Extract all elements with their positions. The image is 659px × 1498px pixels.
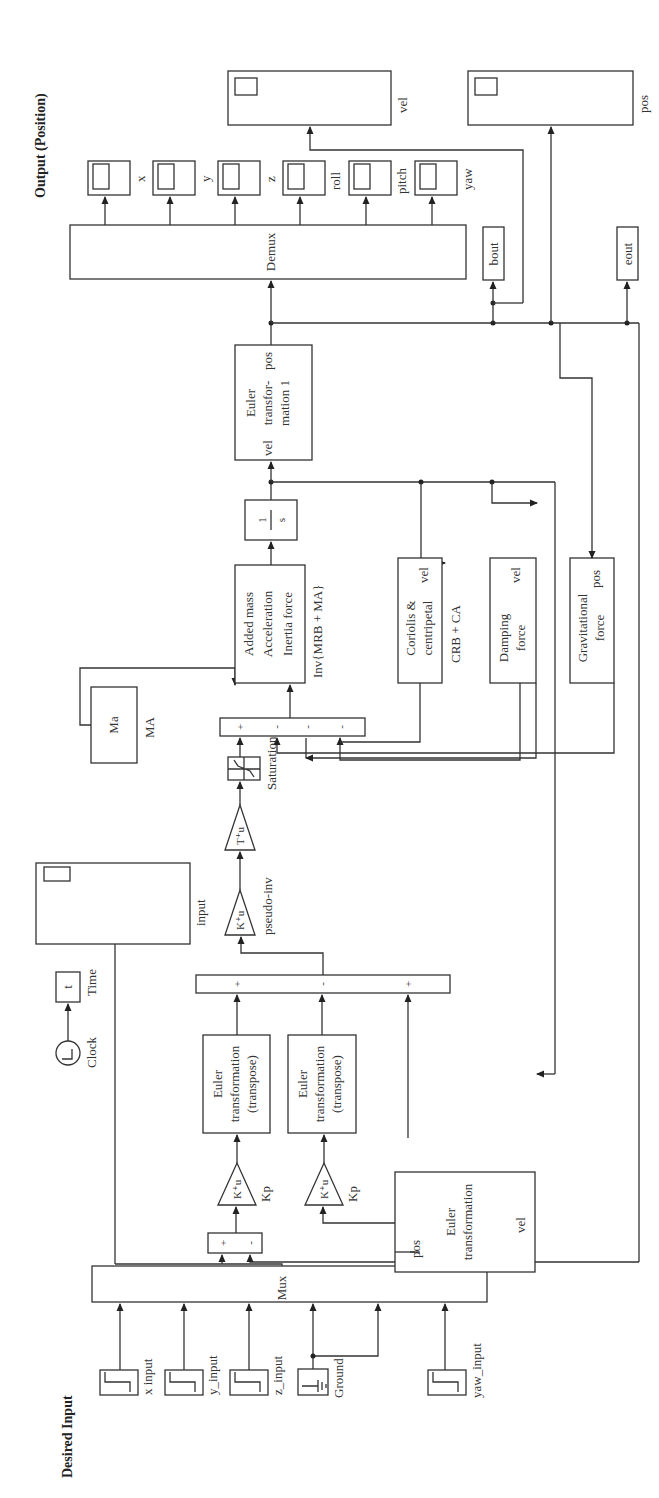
ma-label: MA [142,716,157,738]
euler-transformation-1-block[interactable]: Euler transfor- mation 1 vel pos [235,345,312,460]
output-position-title: Output (Position) [33,93,49,198]
scope-x[interactable]: x [88,161,148,195]
t-gain-text: T⁺u [234,826,246,845]
sumbig-sign-1: + [231,981,243,987]
scope-y-label: y [198,175,213,182]
z-input-block[interactable]: z_input [230,1356,285,1395]
coriolis-block[interactable]: Coriolis & centripetal vel CRB + CA [398,558,463,683]
scope-roll-label: roll [328,172,343,190]
pseudo-inv-text: K⁺u [234,910,246,930]
y-input-block[interactable]: y_input [165,1355,220,1395]
integrator-den: s [275,518,287,522]
pos-scope-label: pos [636,95,651,113]
added-mass-label: Inv{MRB + MA} [310,585,325,679]
input-scope-label: input [193,899,208,926]
sum4-sign-3: - [301,725,313,729]
sum-big-block[interactable]: + - + [196,975,450,993]
scope-x-label: x [133,175,148,182]
clock-block[interactable]: Clock [56,1036,99,1068]
eout-label: eout [620,242,635,265]
sumbig-sign-2: - [316,982,328,986]
eout-block[interactable]: eout [617,227,638,280]
euler1-line3: mation 1 [277,380,292,426]
euler-transpose-1-block[interactable]: Euler transformation (transpose) [203,1035,270,1133]
kp-gain-1[interactable]: K⁺u Kp [218,1163,273,1205]
simulink-diagram: Desired Input Output (Position) x input … [0,0,659,1498]
added-mass-line3: Inertia force [280,592,295,656]
euler-line2: transformation [460,1183,475,1260]
gravitational-block[interactable]: Gravitational force pos [570,558,614,683]
euler-t2-line1: Euler [295,1069,310,1098]
kp1-label: Kp [258,1186,273,1202]
added-mass-line1: Added mass [241,592,256,656]
ground-label: Ground [331,1358,346,1398]
kp1-text: K⁺u [231,1179,243,1199]
scope-yaw[interactable]: yaw [415,161,475,195]
damping-block[interactable]: Damping force vel [490,558,536,683]
clock-label: Clock [84,1036,99,1068]
gravitational-line1: Gravitational [575,593,590,662]
ground-block[interactable]: Ground [298,1358,346,1398]
added-mass-block[interactable]: Added mass Acceleration Inertia force In… [235,565,325,683]
vel-scope[interactable]: vel [228,71,410,125]
scope-pitch[interactable]: pitch [349,161,409,195]
euler1-line1: Euler [243,388,258,417]
sum1-sign-plus: + [217,1240,229,1246]
damping-vel-port: vel [508,567,523,583]
euler-line1: Euler [443,1207,458,1236]
saturation-block[interactable]: Saturation [228,736,279,790]
pseudo-inv-label: pseudo-inv [260,877,275,935]
sum4-sign-2: - [270,725,282,729]
integrator-num: 1 [256,517,268,523]
euler1-pos-port: pos [260,352,275,370]
z-input-label: z_input [270,1356,285,1395]
coriolis-vel-port: vel [416,567,431,583]
euler-t2-line3: (transpose) [329,1055,344,1113]
coriolis-line1: Coriolis & [403,600,418,655]
euler-pos-port: pos [408,1240,423,1258]
kp2-label: Kp [345,1186,360,1202]
scope-y[interactable]: y [153,161,213,195]
sum1-block[interactable]: + - [208,1233,262,1253]
kp2-text: K⁺u [318,1179,330,1199]
scope-yaw-label: yaw [460,168,475,190]
euler-t1-line1: Euler [210,1069,225,1098]
sum4-block[interactable]: + - - - [220,718,365,736]
added-mass-line2: Acceleration [260,590,275,657]
scope-pitch-label: pitch [394,168,409,194]
yaw-input-block[interactable]: yaw_input [428,1343,484,1398]
pos-scope[interactable]: pos [468,71,651,125]
time-label: Time [84,969,99,996]
demux-block[interactable]: Demux [70,225,466,279]
ma-block[interactable]: Ma MA [91,687,157,763]
euler-transformation-block[interactable]: pos Euler transformation vel [395,1172,535,1272]
time-block[interactable]: t Time [56,969,99,1002]
euler-t1-line2: transformation [227,1045,242,1122]
euler-transpose-2-block[interactable]: Euler transformation (transpose) [288,1035,356,1133]
damping-line1: Damping [496,613,511,662]
sumbig-sign-3: + [402,981,414,987]
euler-t2-line2: transformation [312,1045,327,1122]
integrator-block[interactable]: 1 s [245,500,297,540]
vel-scope-label: vel [395,97,410,113]
scope-z[interactable]: z [218,161,278,195]
desired-input-title: Desired Input [60,1395,75,1478]
sum4-sign-4: - [335,725,347,729]
kp-gain-2[interactable]: K⁺u Kp [305,1163,360,1205]
scope-z-label: z [263,176,278,182]
t-gain[interactable]: T⁺u [225,805,255,850]
y-input-label: y_input [205,1355,220,1395]
coriolis-line2: centripetal [420,600,435,655]
euler1-vel-port: vel [260,440,275,456]
scope-roll[interactable]: roll [283,161,343,195]
input-scope[interactable]: input [36,863,208,944]
euler1-line2: transfor- [260,381,275,426]
gravitational-pos-port: pos [588,570,603,588]
bout-block[interactable]: bout [483,227,504,280]
euler-vel-port: vel [513,1217,528,1233]
pseudo-inv-gain[interactable]: K⁺u pseudo-inv [225,877,275,935]
sum1-sign-minus: - [244,1241,256,1245]
coriolis-label: CRB + CA [448,604,463,663]
x-input-block[interactable]: x input [100,1358,155,1395]
damping-line2: force [513,624,528,651]
